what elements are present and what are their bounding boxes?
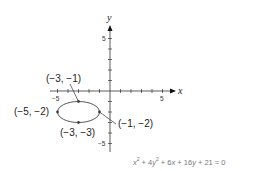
coordinate-plane [0, 0, 254, 171]
point-label-bottom: (−3, −3) [60, 127, 95, 138]
x-axis-label: x [178, 85, 182, 96]
y-axis-label: y [107, 12, 111, 23]
ellipse-curve [58, 102, 100, 123]
y-axis-arrow-icon [108, 25, 113, 31]
point-left [56, 111, 59, 114]
ellipse-equation: x2 + 4y2 + 6x + 16y + 21 = 0 [133, 156, 226, 167]
x-tick-label-neg5: −5 [52, 95, 59, 102]
point-label-left: (−5, −2) [14, 106, 49, 117]
y-tick-label-5: 5 [102, 35, 106, 42]
point-label-top: (−3, −1) [46, 73, 81, 84]
leader-top [70, 84, 79, 102]
point-bottom [77, 121, 80, 124]
point-label-right: (−1, −2) [118, 118, 153, 129]
x-axis-arrow-icon [170, 89, 176, 94]
y-tick-label-neg5: −5 [98, 140, 105, 147]
leader-right [100, 112, 117, 124]
x-tick-label-5: 5 [160, 95, 164, 102]
